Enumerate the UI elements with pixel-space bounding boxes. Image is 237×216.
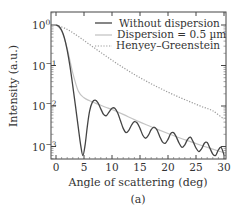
legend-label-henyey-greenstein: Henyey–Greenstein	[116, 39, 220, 51]
y-axis-label: Intensity (a.u.)	[7, 45, 20, 127]
x-tick-label: 0	[53, 161, 60, 173]
x-tick-label: 15	[133, 161, 146, 173]
x-axis-label: Angle of scattering (deg)	[67, 176, 207, 189]
figure-caption: (a)	[130, 193, 145, 206]
legend: Without dispersion Dispersion = 0.5 µm H…	[95, 17, 226, 51]
x-tick-label: 5	[81, 161, 88, 173]
y-tick-labels: 10010−110−210−3	[32, 18, 57, 153]
y-tick-label: 100	[32, 18, 50, 31]
x-tick-label: 10	[105, 161, 118, 173]
x-tick-label: 30	[217, 161, 230, 173]
chart: 051015202530 10010−110−210−3 Angle of sc…	[0, 0, 237, 216]
x-tick-label: 25	[189, 161, 202, 173]
x-tick-label: 20	[161, 161, 174, 173]
x-tick-labels: 051015202530	[53, 161, 231, 173]
